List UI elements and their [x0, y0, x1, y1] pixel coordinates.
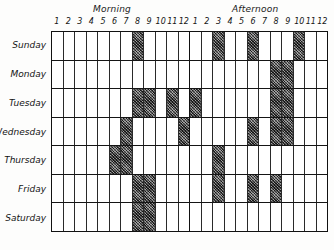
schedule-cell-monday-pm-2[interactable] [202, 61, 214, 89]
schedule-cell-monday-am-8[interactable] [133, 61, 145, 89]
schedule-cell-saturday-pm-5[interactable] [236, 203, 248, 231]
schedule-cell-sunday-am-11[interactable] [167, 32, 179, 60]
schedule-cell-tuesday-pm-10[interactable] [294, 89, 306, 117]
schedule-cell-friday-pm-3[interactable] [213, 175, 225, 203]
schedule-cell-monday-am-6[interactable] [110, 61, 122, 89]
schedule-cell-tuesday-am-12[interactable] [179, 89, 191, 117]
schedule-cell-tuesday-pm-6[interactable] [248, 89, 260, 117]
schedule-cell-friday-pm-2[interactable] [202, 175, 214, 203]
schedule-cell-friday-pm-12[interactable] [317, 175, 328, 203]
schedule-cell-friday-pm-9[interactable] [282, 175, 294, 203]
schedule-cell-tuesday-pm-1[interactable] [190, 89, 202, 117]
schedule-cell-monday-am-11[interactable] [167, 61, 179, 89]
schedule-cell-monday-pm-7[interactable] [259, 61, 271, 89]
schedule-cell-thursday-am-8[interactable] [133, 146, 145, 174]
schedule-cell-sunday-am-1[interactable] [52, 32, 64, 60]
schedule-cell-thursday-am-10[interactable] [156, 146, 168, 174]
schedule-cell-monday-pm-10[interactable] [294, 61, 306, 89]
schedule-cell-friday-pm-5[interactable] [236, 175, 248, 203]
schedule-cell-monday-am-12[interactable] [179, 61, 191, 89]
schedule-cell-thursday-am-3[interactable] [75, 146, 87, 174]
schedule-cell-tuesday-pm-12[interactable] [317, 89, 328, 117]
schedule-cell-wednesday-pm-10[interactable] [294, 118, 306, 146]
schedule-cell-saturday-am-1[interactable] [52, 203, 64, 231]
schedule-cell-wednesday-am-12[interactable] [179, 118, 191, 146]
schedule-cell-wednesday-am-3[interactable] [75, 118, 87, 146]
schedule-cell-wednesday-pm-12[interactable] [317, 118, 328, 146]
schedule-cell-thursday-am-5[interactable] [98, 146, 110, 174]
schedule-cell-monday-am-3[interactable] [75, 61, 87, 89]
schedule-cell-sunday-am-6[interactable] [110, 32, 122, 60]
schedule-cell-friday-am-12[interactable] [179, 175, 191, 203]
schedule-cell-monday-pm-8[interactable] [271, 61, 283, 89]
schedule-cell-thursday-am-6[interactable] [110, 146, 122, 174]
schedule-cell-thursday-am-12[interactable] [179, 146, 191, 174]
schedule-cell-friday-pm-11[interactable] [305, 175, 317, 203]
schedule-cell-friday-am-8[interactable] [133, 175, 145, 203]
schedule-cell-monday-pm-6[interactable] [248, 61, 260, 89]
schedule-cell-thursday-pm-5[interactable] [236, 146, 248, 174]
schedule-cell-wednesday-pm-2[interactable] [202, 118, 214, 146]
schedule-cell-sunday-am-9[interactable] [144, 32, 156, 60]
schedule-cell-friday-am-4[interactable] [87, 175, 99, 203]
schedule-cell-saturday-pm-11[interactable] [305, 203, 317, 231]
schedule-cell-sunday-pm-6[interactable] [248, 32, 260, 60]
schedule-cell-wednesday-am-8[interactable] [133, 118, 145, 146]
schedule-cell-tuesday-am-3[interactable] [75, 89, 87, 117]
schedule-cell-wednesday-pm-11[interactable] [305, 118, 317, 146]
schedule-cell-tuesday-am-8[interactable] [133, 89, 145, 117]
schedule-cell-tuesday-am-7[interactable] [121, 89, 133, 117]
schedule-cell-wednesday-am-7[interactable] [121, 118, 133, 146]
schedule-cell-tuesday-pm-2[interactable] [202, 89, 214, 117]
schedule-cell-sunday-am-7[interactable] [121, 32, 133, 60]
schedule-cell-thursday-pm-9[interactable] [282, 146, 294, 174]
schedule-cell-wednesday-am-6[interactable] [110, 118, 122, 146]
schedule-cell-wednesday-pm-6[interactable] [248, 118, 260, 146]
schedule-cell-friday-pm-7[interactable] [259, 175, 271, 203]
schedule-cell-thursday-pm-10[interactable] [294, 146, 306, 174]
schedule-cell-friday-pm-4[interactable] [225, 175, 237, 203]
schedule-cell-saturday-pm-6[interactable] [248, 203, 260, 231]
schedule-cell-thursday-pm-6[interactable] [248, 146, 260, 174]
schedule-cell-friday-am-1[interactable] [52, 175, 64, 203]
schedule-cell-monday-am-2[interactable] [64, 61, 76, 89]
schedule-cell-saturday-pm-7[interactable] [259, 203, 271, 231]
schedule-cell-monday-pm-9[interactable] [282, 61, 294, 89]
schedule-cell-sunday-am-12[interactable] [179, 32, 191, 60]
schedule-cell-saturday-am-8[interactable] [133, 203, 145, 231]
schedule-cell-saturday-pm-2[interactable] [202, 203, 214, 231]
schedule-cell-sunday-am-8[interactable] [133, 32, 145, 60]
schedule-cell-sunday-pm-3[interactable] [213, 32, 225, 60]
schedule-cell-sunday-am-2[interactable] [64, 32, 76, 60]
schedule-cell-thursday-am-9[interactable] [144, 146, 156, 174]
schedule-cell-wednesday-am-1[interactable] [52, 118, 64, 146]
schedule-cell-sunday-pm-5[interactable] [236, 32, 248, 60]
schedule-cell-thursday-pm-3[interactable] [213, 146, 225, 174]
schedule-cell-saturday-am-7[interactable] [121, 203, 133, 231]
schedule-cell-monday-pm-4[interactable] [225, 61, 237, 89]
schedule-cell-sunday-pm-8[interactable] [271, 32, 283, 60]
schedule-cell-tuesday-am-2[interactable] [64, 89, 76, 117]
schedule-cell-sunday-pm-9[interactable] [282, 32, 294, 60]
schedule-cell-sunday-am-3[interactable] [75, 32, 87, 60]
schedule-cell-monday-am-10[interactable] [156, 61, 168, 89]
schedule-cell-thursday-pm-1[interactable] [190, 146, 202, 174]
schedule-cell-saturday-pm-1[interactable] [190, 203, 202, 231]
schedule-cell-friday-am-5[interactable] [98, 175, 110, 203]
schedule-cell-friday-pm-10[interactable] [294, 175, 306, 203]
schedule-cell-saturday-am-5[interactable] [98, 203, 110, 231]
schedule-cell-friday-am-10[interactable] [156, 175, 168, 203]
schedule-cell-wednesday-am-2[interactable] [64, 118, 76, 146]
schedule-cell-wednesday-am-5[interactable] [98, 118, 110, 146]
schedule-cell-thursday-pm-8[interactable] [271, 146, 283, 174]
schedule-cell-monday-am-7[interactable] [121, 61, 133, 89]
schedule-cell-monday-am-5[interactable] [98, 61, 110, 89]
schedule-cell-monday-pm-3[interactable] [213, 61, 225, 89]
schedule-cell-sunday-pm-1[interactable] [190, 32, 202, 60]
schedule-cell-saturday-am-12[interactable] [179, 203, 191, 231]
schedule-cell-friday-pm-8[interactable] [271, 175, 283, 203]
schedule-cell-sunday-pm-11[interactable] [305, 32, 317, 60]
schedule-cell-wednesday-am-10[interactable] [156, 118, 168, 146]
schedule-cell-monday-pm-11[interactable] [305, 61, 317, 89]
schedule-cell-wednesday-pm-4[interactable] [225, 118, 237, 146]
